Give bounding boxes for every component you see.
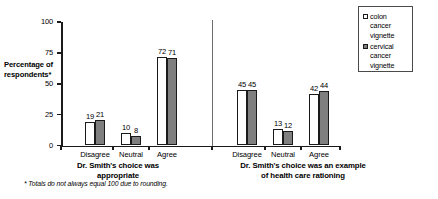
x-tick-0: [60, 146, 61, 150]
bar-value-g1-c2-s1: 44: [313, 82, 335, 90]
y-tick-50: [57, 83, 61, 85]
y-axis-line: [61, 22, 63, 146]
bar-g0-c2-s1: [167, 58, 177, 146]
bar-g1-c2-s0: [309, 94, 319, 146]
y-axis-title-line1: Percentage of: [4, 60, 62, 70]
bar-g0-c2-s0: [157, 57, 167, 146]
y-tick-label-0: 0: [31, 142, 53, 150]
category-label-0-2: Agree: [145, 150, 189, 159]
y-tick-label-25: 25: [31, 111, 53, 119]
footnote: * Totals do not always equal 100 due to …: [24, 180, 168, 187]
group-caption-left-line2: appropriate: [48, 171, 188, 181]
legend-label-cervical-line3: vignette: [370, 61, 414, 70]
bar-g0-c0-s0: [85, 122, 95, 145]
bar-g0-c1-s0: [121, 133, 131, 145]
legend-swatch-cervical-icon: [363, 44, 368, 49]
bar-value-g0-c0-s1: 21: [89, 111, 111, 119]
y-tick-label-75: 75: [31, 49, 53, 57]
bar-g1-c1-s1: [283, 131, 293, 146]
bar-value-g0-c1-s1: 8: [125, 127, 147, 135]
group-caption-left-line1: Dr. Smith's choice was: [48, 161, 188, 171]
legend-label-colon-line3: vignette: [370, 31, 414, 40]
bar-g1-c1-s0: [273, 129, 283, 145]
bar-g1-c0-s0: [237, 90, 247, 146]
bar-value-g1-c1-s1: 12: [277, 122, 299, 130]
legend-label-colon: colon cancer vignette: [370, 12, 414, 40]
group-caption-right: Dr. Smith's choice was an example of hea…: [218, 161, 388, 180]
y-tick-label-100: 100: [31, 18, 53, 26]
y-axis-title: Percentage of respondents*: [4, 60, 62, 80]
y-tick-75: [57, 52, 61, 54]
category-label-1-2: Agree: [297, 150, 341, 159]
y-axis-title-line2: respondents*: [4, 70, 62, 80]
y-tick-25: [57, 114, 61, 116]
bar-value-g0-c2-s1: 71: [161, 49, 183, 57]
bar-g0-c0-s1: [95, 120, 105, 146]
bar-g0-c1-s1: [131, 136, 141, 146]
bar-value-g1-c0-s1: 45: [241, 81, 263, 89]
group-caption-right-line2: of health care rationing: [218, 171, 388, 181]
legend-swatch-colon-icon: [363, 14, 368, 19]
legend: colon cancer vignette cervical cancer vi…: [358, 6, 413, 72]
legend-label-cervical-line2: cancer: [370, 51, 414, 60]
bar-g1-c2-s1: [319, 91, 329, 145]
group-caption-right-line1: Dr. Smith's choice was an example: [218, 161, 388, 171]
legend-label-colon-line2: cancer: [370, 21, 414, 30]
group-caption-left: Dr. Smith's choice was appropriate: [48, 161, 188, 180]
legend-label-colon-line1: colon: [370, 12, 414, 21]
bar-chart: Percentage of respondents* 0255075100 Di…: [0, 0, 438, 199]
bar-g1-c0-s1: [247, 90, 257, 146]
x-axis-line: [61, 146, 340, 148]
panel-divider: [212, 20, 213, 146]
legend-label-cervical-line1: cervical: [370, 42, 414, 51]
y-tick-100: [57, 21, 61, 23]
x-tick-3: [211, 146, 212, 150]
y-tick-label-50: 50: [31, 80, 53, 88]
legend-label-cervical: cervical cancer vignette: [370, 42, 414, 70]
